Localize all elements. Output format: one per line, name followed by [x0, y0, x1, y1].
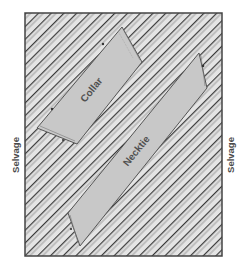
fabric-layout-diagram: Collar Necktie Selvage Selvage [0, 0, 242, 267]
selvage-right-label: Selvage [225, 137, 236, 173]
selvage-left-label: Selvage [10, 137, 21, 173]
